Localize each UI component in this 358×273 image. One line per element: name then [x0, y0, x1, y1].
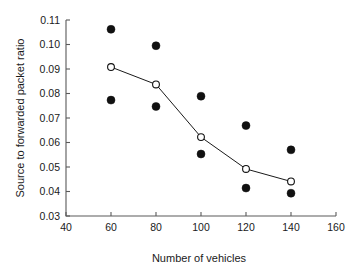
y-tick-label: 0.03 — [40, 210, 61, 222]
data-point-mean-80 — [153, 81, 160, 88]
chart-figure: 406080100120140160 0.030.040.050.060.070… — [0, 0, 358, 273]
data-point-mean-120 — [243, 166, 250, 173]
x-tick-label: 160 — [327, 221, 345, 233]
data-point-upper-140 — [287, 146, 295, 154]
data-point-lower-120 — [242, 184, 250, 192]
y-tick-label: 0.04 — [40, 185, 61, 197]
data-point-mean-140 — [288, 178, 295, 185]
data-point-lower-100 — [197, 150, 205, 158]
data-point-upper-80 — [152, 42, 160, 50]
y-tick-label: 0.10 — [40, 38, 61, 50]
data-point-lower-80 — [152, 102, 160, 110]
data-point-mean-100 — [198, 134, 205, 141]
y-tick-label: 0.06 — [40, 136, 61, 148]
x-tick-label: 80 — [150, 221, 162, 233]
data-point-upper-120 — [242, 122, 250, 130]
y-tick-label: 0.09 — [40, 63, 61, 75]
x-tick-label: 140 — [282, 221, 300, 233]
x-axis-title: Number of vehicles — [152, 252, 247, 264]
data-point-mean-60 — [108, 64, 115, 71]
y-axis-title: Source to forwarded packet ratio — [14, 39, 26, 198]
data-point-lower-140 — [287, 189, 295, 197]
y-tick-label: 0.08 — [40, 87, 61, 99]
y-tick-label: 0.05 — [40, 161, 61, 173]
data-point-upper-100 — [197, 92, 205, 100]
x-tick-label: 60 — [105, 221, 117, 233]
y-axis-tick-labels: 0.030.040.050.060.070.080.090.100.11 — [40, 14, 61, 222]
y-tick-label: 0.11 — [40, 14, 60, 26]
x-tick-label: 120 — [237, 221, 255, 233]
x-tick-label: 40 — [60, 221, 72, 233]
data-point-lower-60 — [107, 96, 115, 104]
x-tick-label: 100 — [192, 221, 210, 233]
chart-canvas: 406080100120140160 0.030.040.050.060.070… — [0, 0, 358, 273]
data-point-upper-60 — [107, 25, 115, 33]
y-tick-label: 0.07 — [40, 112, 61, 124]
